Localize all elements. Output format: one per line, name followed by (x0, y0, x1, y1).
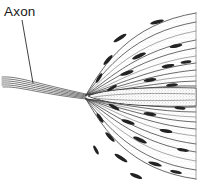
axon-label: Axon (4, 4, 36, 19)
axon-diagram-figure: Axon (0, 0, 203, 189)
diagram-canvas: Axon (0, 0, 203, 189)
